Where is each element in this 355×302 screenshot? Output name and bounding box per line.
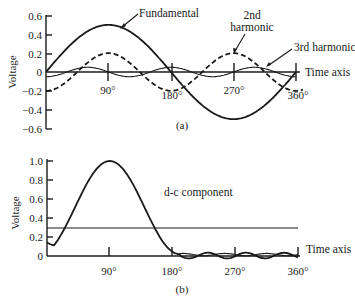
harmonics-figure: 0.6 0.4 0.2 0 −0.2 −0.4 −0.6 Voltage 90°… [0,0,355,302]
x-tick-label: 90° [100,84,115,96]
x-tick-label: 90° [101,265,116,277]
y-tick-label: 0 [37,66,43,78]
y-tick-label: 0.8 [29,174,43,186]
y-tick-label: 0.6 [29,193,43,205]
dc-component-label: d-c component [164,186,233,199]
y-tick-label: 0 [38,250,44,262]
y-tick-label: 0.6 [28,10,42,22]
time-axis-label-a: Time axis [305,66,351,78]
x-tick-label: 270° [224,84,245,96]
second-harmonic-arrow [235,34,245,51]
second-harmonic-label-line2: harmonic [230,21,273,33]
caption-b: (b) [176,283,189,296]
y-tick-label: 0.2 [28,48,42,60]
third-harmonic-arrow [269,49,292,65]
x-tick-label: 180° [162,89,183,101]
caption-a: (a) [176,119,189,132]
second-harmonic-label-line1: 2nd [243,9,261,21]
y-tick-label: 0.4 [28,29,42,41]
y-axis-label-a: Voltage [6,55,18,89]
x-ticks-b [109,247,298,256]
y-axis-label-b: Voltage [9,196,21,230]
time-axis-label-b: Time axis [306,243,352,255]
x-tick-label: 360° [288,265,309,277]
y-tick-label: −0.2 [22,85,42,97]
x-tick-label: 270° [225,265,246,277]
y-tick-label: −0.6 [22,123,42,135]
y-ticks-b [47,161,53,237]
chart-a: 0.6 0.4 0.2 0 −0.2 −0.4 −0.6 Voltage 90°… [6,7,355,135]
y-tick-label: 0.2 [29,231,43,243]
x-tick-label: 360° [288,89,309,101]
chart-b: 1.0 0.8 0.6 0.4 0.2 0 Voltage 90° 180° 2… [9,155,352,296]
y-tick-label: 1.0 [29,155,43,167]
sum-waveform-curve [47,161,298,258]
x-tick-label: 180° [162,265,183,277]
arrowhead [266,62,271,67]
fundamental-label: Fundamental [139,7,199,19]
third-harmonic-label: 3rd harmonic [294,41,355,53]
y-tick-label: 0.4 [29,212,43,224]
y-tick-label: −0.4 [22,104,42,116]
